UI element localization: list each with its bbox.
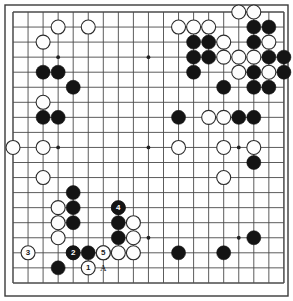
black-stone [81,246,95,260]
black-stone [51,110,65,124]
star-point [147,55,151,59]
white-stone [232,50,246,64]
star-point [147,146,151,150]
white-stone [51,20,65,34]
black-stone [36,65,50,79]
white-stone [217,171,231,185]
black-stone [202,35,216,49]
black-stone [217,80,231,94]
black-stone [51,261,65,275]
black-stone [247,20,261,34]
white-stone [247,140,261,154]
black-stone [247,35,261,49]
star-point [56,146,60,150]
black-stone [247,80,261,94]
black-stone [187,35,201,49]
white-stone [111,246,125,260]
white-stone [187,20,201,34]
white-stone [36,171,50,185]
black-stone [51,65,65,79]
black-stone [262,20,276,34]
star-point [147,236,151,240]
white-stone [202,20,216,34]
numbered-move-stone-2 [66,246,80,260]
white-stone [172,20,186,34]
black-stone [36,110,50,124]
white-stone [172,140,186,154]
go-board-grid [0,0,293,301]
white-stone [81,20,95,34]
black-stone [187,65,201,79]
white-stone [51,201,65,215]
black-stone [172,246,186,260]
black-stone [217,246,231,260]
black-stone [232,110,246,124]
black-stone [277,65,291,79]
numbered-move-stone-4 [111,201,125,215]
black-stone [172,110,186,124]
black-stone [262,80,276,94]
white-stone [126,246,140,260]
numbered-move-stone-3 [21,246,35,260]
black-stone [262,50,276,64]
black-stone [247,231,261,245]
numbered-move-stone-5 [96,246,110,260]
black-stone [111,231,125,245]
black-stone [247,156,261,170]
star-point [56,55,60,59]
black-stone [277,50,291,64]
black-stone [202,50,216,64]
white-stone [126,216,140,230]
numbered-move-stone-1 [81,261,95,275]
white-stone [51,231,65,245]
white-stone [232,5,246,19]
white-stone [202,110,216,124]
black-stone [66,201,80,215]
black-stone [187,50,201,64]
white-stone [51,216,65,230]
black-stone [247,110,261,124]
black-stone [66,216,80,230]
star-point [237,236,241,240]
white-stone [36,35,50,49]
black-stone [111,216,125,230]
black-stone [66,80,80,94]
white-stone [217,140,231,154]
white-stone [262,35,276,49]
white-stone [262,65,276,79]
black-stone [247,65,261,79]
black-stone [66,186,80,200]
white-stone [217,35,231,49]
white-stone [217,50,231,64]
white-stone [6,140,20,154]
white-stone [217,110,231,124]
white-stone [36,140,50,154]
star-point [237,146,241,150]
white-stone [232,65,246,79]
go-board-diagram: 12345A [0,0,293,301]
white-stone [126,231,140,245]
white-stone [247,50,261,64]
white-stone [36,95,50,109]
white-stone [247,5,261,19]
